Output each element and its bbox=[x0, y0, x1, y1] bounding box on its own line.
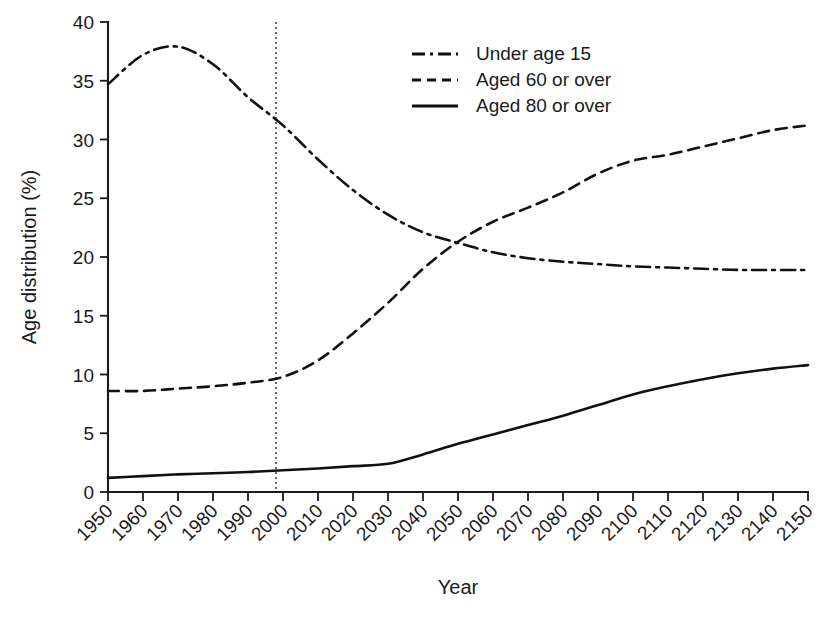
x-tick-label: 2070 bbox=[492, 500, 537, 545]
x-tick-label: 2120 bbox=[667, 500, 712, 545]
x-tick-label: 2020 bbox=[317, 500, 362, 545]
y-tick-label: 35 bbox=[73, 71, 94, 92]
x-tick-label: 2040 bbox=[387, 500, 432, 545]
legend-label: Aged 60 or over bbox=[476, 69, 612, 90]
x-tick-label: 2130 bbox=[702, 500, 747, 545]
series-line-aged-80-or-over bbox=[108, 365, 808, 478]
x-tick-label: 2000 bbox=[247, 500, 292, 545]
x-tick-label: 2050 bbox=[422, 500, 467, 545]
legend-label: Under age 15 bbox=[476, 43, 591, 64]
x-tick-label: 2030 bbox=[352, 500, 397, 545]
y-tick-label: 10 bbox=[73, 365, 94, 386]
x-tick-label: 1950 bbox=[72, 500, 117, 545]
x-axis-title: Year bbox=[438, 576, 479, 598]
y-tick-label: 25 bbox=[73, 188, 94, 209]
y-tick-label: 20 bbox=[73, 247, 94, 268]
chart-legend: Under age 15Aged 60 or overAged 80 or ov… bbox=[412, 43, 612, 116]
x-tick-label: 2150 bbox=[772, 500, 817, 545]
x-tick-label: 1970 bbox=[142, 500, 187, 545]
series-line-aged-60-or-over bbox=[108, 125, 808, 391]
plot-area: 0510152025303540195019601970198019902000… bbox=[72, 12, 817, 545]
x-tick-label: 2140 bbox=[737, 500, 782, 545]
y-tick-label: 30 bbox=[73, 130, 94, 151]
legend-label: Aged 80 or over bbox=[476, 95, 612, 116]
x-tick-label: 2090 bbox=[562, 500, 607, 545]
x-tick-label: 1980 bbox=[177, 500, 222, 545]
y-tick-label: 0 bbox=[83, 482, 94, 503]
y-tick-label: 5 bbox=[83, 423, 94, 444]
x-tick-label: 2080 bbox=[527, 500, 572, 545]
y-tick-label: 40 bbox=[73, 12, 94, 33]
chart-container: 0510152025303540195019601970198019902000… bbox=[0, 0, 837, 620]
x-tick-label: 2110 bbox=[633, 500, 677, 544]
x-tick-label: 1960 bbox=[107, 500, 152, 545]
x-tick-label: 2060 bbox=[457, 500, 502, 545]
x-tick-label: 2010 bbox=[282, 500, 327, 545]
x-tick-label: 2100 bbox=[597, 500, 642, 545]
y-tick-label: 15 bbox=[73, 306, 94, 327]
series-layer bbox=[108, 46, 808, 478]
x-tick-label: 1990 bbox=[212, 500, 257, 545]
age-distribution-line-chart: 0510152025303540195019601970198019902000… bbox=[0, 0, 837, 620]
y-axis-title: Age distribution (%) bbox=[18, 170, 40, 345]
